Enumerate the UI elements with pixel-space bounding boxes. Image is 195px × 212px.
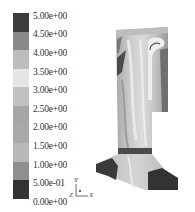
contour-plot: [0, 0, 195, 212]
axis-label-z: Z: [69, 191, 73, 199]
axes-triad-icon: [76, 184, 88, 196]
upper-chamber-region: [116, 27, 168, 150]
lower-section-region: [96, 154, 178, 190]
axis-label-x: X: [89, 191, 93, 199]
neck-region: [118, 148, 152, 154]
axis-label-y: Y: [74, 176, 78, 184]
